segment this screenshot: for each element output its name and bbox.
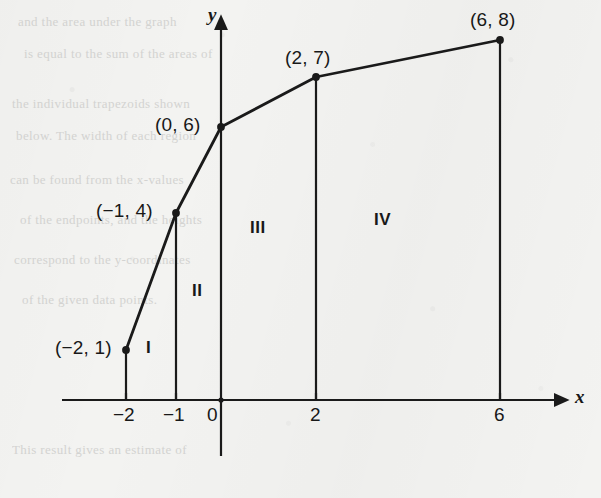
point-label-2-7: (2, 7) bbox=[285, 47, 331, 69]
x-tick-label-6: 6 bbox=[494, 404, 505, 426]
point-label-0-6: (0, 6) bbox=[155, 114, 201, 136]
point-label-6-8: (6, 8) bbox=[470, 9, 516, 31]
data-point-marker bbox=[217, 123, 225, 131]
region-label-iv: IV bbox=[374, 210, 391, 230]
point-label--1-4: (−1, 4) bbox=[96, 200, 153, 222]
x-tick-label--2: −2 bbox=[113, 404, 135, 426]
x-tick-label-2: 2 bbox=[310, 404, 321, 426]
data-point-marker bbox=[122, 346, 130, 354]
data-point-marker bbox=[496, 36, 504, 44]
data-point-marker bbox=[172, 209, 180, 217]
x-axis-label: x bbox=[575, 386, 585, 408]
x-tick-label-0: 0 bbox=[207, 404, 218, 426]
data-point-marker bbox=[312, 73, 320, 81]
origin-marker bbox=[218, 397, 223, 402]
x-tick-label--1: −1 bbox=[163, 404, 185, 426]
y-axis-label: y bbox=[208, 4, 216, 26]
figure-canvas: and the area under the graph is equal to… bbox=[0, 0, 601, 498]
data-polyline bbox=[126, 40, 500, 350]
region-label-iii: III bbox=[250, 218, 266, 238]
coordinate-plot bbox=[0, 0, 601, 498]
region-label-ii: II bbox=[192, 281, 202, 301]
region-label-i: I bbox=[146, 338, 151, 358]
point-label--2-1: (−2, 1) bbox=[55, 337, 112, 359]
